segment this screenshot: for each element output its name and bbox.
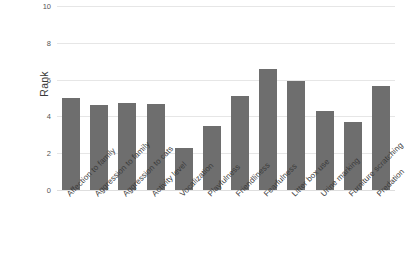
gridline-0: 0 bbox=[57, 190, 395, 191]
x-axis-tick-labels: Affection to familyAggression to familyA… bbox=[57, 192, 395, 269]
bar bbox=[90, 105, 108, 190]
y-tick-label-0: 0 bbox=[47, 186, 51, 195]
y-tick-label-8: 8 bbox=[47, 38, 51, 47]
y-tick-label-4: 4 bbox=[47, 112, 51, 121]
y-tick-label-10: 10 bbox=[43, 2, 51, 11]
bar-chart: Rank 0246810 Affection to familyAggressi… bbox=[0, 0, 410, 269]
bar bbox=[118, 103, 136, 190]
y-tick-label-2: 2 bbox=[47, 149, 51, 158]
bars-group bbox=[57, 6, 395, 190]
plot-area: 0246810 bbox=[57, 6, 395, 190]
bar bbox=[62, 98, 80, 190]
y-tick-label-6: 6 bbox=[47, 75, 51, 84]
bar bbox=[316, 111, 334, 190]
